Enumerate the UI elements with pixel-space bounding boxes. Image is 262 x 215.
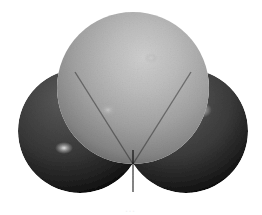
atom-central-specular-highlight [144, 53, 158, 63]
figure-canvas: … [0, 0, 262, 215]
atom-central-top [57, 12, 209, 164]
atom-central-sphere [57, 12, 209, 164]
molecule-svg [0, 0, 262, 215]
molecule-space-filling-model [0, 0, 262, 215]
atom-left-specular-highlight [55, 142, 73, 154]
caption-remnant: … [0, 202, 262, 215]
